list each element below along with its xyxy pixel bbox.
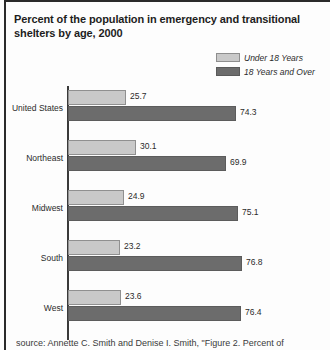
figure-container: Percent of the population in emergency a… — [0, 0, 330, 350]
category-label-south: South — [41, 253, 63, 263]
legend-swatch-18-and-over-icon — [216, 67, 240, 76]
bar-value-label: 24.9 — [128, 191, 145, 201]
bar-value-label: 75.1 — [242, 207, 259, 217]
bar-18-and-over — [68, 106, 236, 121]
bar-group: Midwest24.975.1 — [0, 188, 330, 238]
category-label-northeast: Northeast — [26, 153, 63, 163]
legend-label-18-and-over: 18 Years and Over — [244, 67, 315, 77]
plot-area: United States25.774.3Northeast30.169.9Mi… — [0, 86, 330, 342]
page-top-rule — [4, 0, 330, 2]
category-label-west: West — [44, 303, 63, 313]
bar-under-18 — [68, 190, 124, 205]
bar-under-18 — [68, 140, 136, 155]
bar-value-label: 23.2 — [124, 241, 141, 251]
bar-value-label: 74.3 — [240, 107, 257, 117]
chart-title: Percent of the population in emergency a… — [14, 12, 304, 40]
bar-18-and-over — [68, 156, 226, 171]
legend-item-under-18: Under 18 Years — [216, 52, 326, 63]
bar-group: United States25.774.3 — [0, 88, 330, 138]
bar-value-label: 76.4 — [245, 307, 262, 317]
bar-value-label: 76.8 — [246, 257, 263, 267]
bar-18-and-over — [68, 256, 242, 271]
legend-label-under-18: Under 18 Years — [244, 53, 303, 63]
bar-value-label: 25.7 — [130, 91, 147, 101]
bar-value-label: 30.1 — [140, 141, 157, 151]
legend-swatch-under-18-icon — [216, 53, 240, 62]
bar-value-label: 23.6 — [125, 291, 142, 301]
bar-group: Northeast30.169.9 — [0, 138, 330, 188]
chart-legend: Under 18 Years 18 Years and Over — [216, 52, 326, 80]
source-note: source: Annette C. Smith and Denise I. S… — [16, 338, 316, 349]
bar-value-label: 69.9 — [230, 157, 247, 167]
bar-under-18 — [68, 90, 126, 105]
bar-under-18 — [68, 240, 120, 255]
bar-group: South23.276.8 — [0, 238, 330, 288]
bar-18-and-over — [68, 206, 238, 221]
bar-group: West23.676.4 — [0, 288, 330, 338]
category-label-united-states: United States — [12, 103, 63, 113]
legend-item-18-and-over: 18 Years and Over — [216, 66, 326, 77]
category-label-midwest: Midwest — [32, 203, 63, 213]
bar-18-and-over — [68, 306, 241, 321]
bar-under-18 — [68, 290, 121, 305]
